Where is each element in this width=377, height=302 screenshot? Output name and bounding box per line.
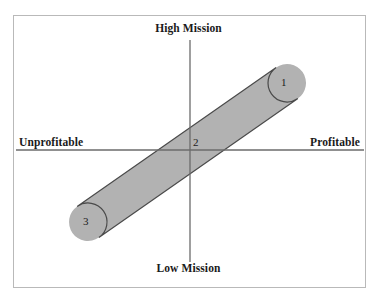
diagram-canvas bbox=[0, 0, 377, 302]
region-label-2: 2 bbox=[193, 136, 199, 148]
axis-label-low-mission: Low Mission bbox=[0, 262, 377, 274]
axis-label-profitable: Profitable bbox=[310, 136, 360, 148]
region-label-1: 1 bbox=[281, 76, 287, 88]
axis-label-unprofitable: Unprofitable bbox=[19, 136, 83, 148]
mission-profitability-band bbox=[88, 83, 287, 222]
figure-root: High Mission Low Mission Unprofitable Pr… bbox=[0, 0, 377, 302]
axis-label-high-mission: High Mission bbox=[0, 22, 377, 34]
band-fill bbox=[88, 83, 287, 222]
region-label-3: 3 bbox=[83, 215, 89, 227]
